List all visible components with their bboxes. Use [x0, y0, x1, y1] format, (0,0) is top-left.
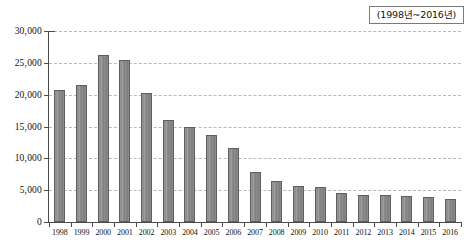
bar [228, 148, 239, 222]
x-axis-tick-label: 2006 [226, 228, 242, 238]
x-axis-tick-mark [461, 222, 462, 227]
x-axis-tick-mark [439, 222, 440, 227]
x-axis-tick-mark [136, 222, 137, 227]
x-axis-tick-label: 1998 [52, 228, 68, 238]
bar [184, 127, 195, 223]
y-axis-tick-label: 15,000 [15, 122, 42, 132]
bar [163, 120, 174, 223]
x-axis-tick-label: 2013 [377, 228, 393, 238]
x-axis-tick-mark [396, 222, 397, 227]
x-axis-tick-mark [374, 222, 375, 227]
bar [380, 195, 391, 222]
bar [315, 187, 326, 222]
x-axis-tick-mark [222, 222, 223, 227]
x-axis-labels: 1998199920002001200220032004200520062007… [49, 228, 461, 246]
bar-series [49, 31, 461, 222]
bar [358, 195, 369, 222]
x-axis-tick-label: 2005 [204, 228, 220, 238]
bar [98, 55, 109, 222]
x-axis-tick-mark [418, 222, 419, 227]
x-axis-tick-mark [157, 222, 158, 227]
bar [119, 60, 130, 222]
x-axis-tick-label: 2012 [356, 228, 372, 238]
y-axis-tick-label: 5,000 [20, 185, 42, 195]
x-axis-tick-mark [331, 222, 332, 227]
x-axis-tick-mark [114, 222, 115, 227]
period-legend-badge: (1998년~2016년) [369, 6, 464, 24]
x-axis-tick-label: 2014 [399, 228, 415, 238]
y-axis-tick-label: 20,000 [15, 90, 42, 100]
x-axis-tick-mark [49, 222, 50, 227]
x-axis-tick-label: 2010 [312, 228, 328, 238]
bar [206, 135, 217, 222]
y-axis-tick-label: 30,000 [15, 26, 42, 36]
y-axis-labels: 05,00010,00015,00020,00025,00030,000 [0, 0, 42, 249]
y-axis-tick-label: 10,000 [15, 153, 42, 163]
y-axis-tick-label: 25,000 [15, 58, 42, 68]
y-axis-tick-label: 0 [37, 217, 42, 227]
x-axis-tick-label: 2001 [117, 228, 133, 238]
x-axis-tick-mark [244, 222, 245, 227]
x-axis-tick-label: 2009 [291, 228, 307, 238]
bar-chart: (1998년~2016년) 05,00010,00015,00020,00025… [0, 0, 468, 249]
x-axis-tick-label: 2003 [160, 228, 176, 238]
x-axis-tick-label: 2002 [139, 228, 155, 238]
x-axis-tick-mark [309, 222, 310, 227]
x-axis-tick-mark [71, 222, 72, 227]
bar [76, 85, 87, 222]
x-axis-tick-label: 2004 [182, 228, 198, 238]
x-axis-tick-label: 2016 [442, 228, 458, 238]
x-axis-tick-label: 2008 [269, 228, 285, 238]
x-axis-tick-mark [179, 222, 180, 227]
bar [445, 199, 456, 222]
bar [271, 181, 282, 222]
x-axis-tick-label: 2007 [247, 228, 263, 238]
bar [401, 196, 412, 222]
x-axis-tick-label: 2000 [95, 228, 111, 238]
bar [54, 90, 65, 222]
bar [423, 197, 434, 222]
bar [336, 193, 347, 222]
x-axis-tick-mark [266, 222, 267, 227]
bar [250, 172, 261, 222]
x-axis-tick-mark [353, 222, 354, 227]
bar [293, 186, 304, 222]
x-axis-tick-label: 2011 [334, 228, 349, 238]
x-axis-tick-label: 1999 [74, 228, 90, 238]
x-axis-tick-label: 2015 [421, 228, 437, 238]
bar [141, 93, 152, 222]
x-axis-tick-mark [201, 222, 202, 227]
x-axis-tick-mark [288, 222, 289, 227]
x-axis-tick-mark [92, 222, 93, 227]
